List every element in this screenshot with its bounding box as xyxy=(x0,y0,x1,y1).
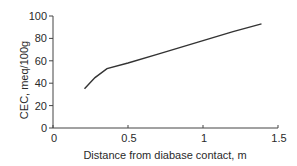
y-tick-label: 0 xyxy=(41,122,47,134)
cec-line xyxy=(85,24,262,89)
x-axis-title: Distance from diabase contact, m xyxy=(83,149,246,161)
y-axis: 020406080100 xyxy=(29,10,53,134)
x-tick-label: 0.5 xyxy=(121,132,136,144)
y-tick-label: 100 xyxy=(29,10,47,22)
line-chart: 020406080100 00.511.5 CEC, meq/100g Dist… xyxy=(0,0,297,166)
x-tick-label: 0 xyxy=(51,132,57,144)
y-tick-label: 60 xyxy=(35,55,47,67)
y-tick-label: 20 xyxy=(35,100,47,112)
y-tick-label: 80 xyxy=(35,32,47,44)
x-tick-label: 1 xyxy=(201,132,207,144)
x-axis: 00.511.5 xyxy=(51,125,287,144)
y-tick-label: 40 xyxy=(35,77,47,89)
x-tick-label: 1.5 xyxy=(271,132,286,144)
y-axis-title: CEC, meq/100g xyxy=(18,41,30,119)
